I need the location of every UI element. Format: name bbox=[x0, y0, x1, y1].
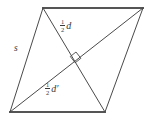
edge-left bbox=[10, 8, 43, 112]
diagonal-d bbox=[43, 8, 105, 112]
fraction-numerator: 1 bbox=[60, 19, 65, 26]
variable-d-prime: d′ bbox=[51, 83, 58, 94]
fraction-denominator: 2 bbox=[60, 26, 65, 33]
diagonal-d-prime bbox=[10, 8, 143, 112]
edge-right bbox=[105, 8, 143, 112]
label-side-s: s bbox=[14, 44, 18, 54]
geometry-figure-rhombus: s 1 2 d 1 2 d′ bbox=[0, 0, 153, 121]
label-half-d: 1 2 d bbox=[60, 17, 71, 33]
fraction-numerator: 1 bbox=[45, 82, 50, 89]
label-half-d-prime: 1 2 d′ bbox=[45, 80, 58, 96]
fraction-denominator: 2 bbox=[45, 89, 50, 96]
variable-d: d bbox=[66, 20, 71, 31]
fraction-one-half: 1 2 bbox=[45, 82, 50, 96]
fraction-one-half: 1 2 bbox=[60, 19, 65, 33]
rhombus-diagram-svg bbox=[0, 0, 153, 121]
